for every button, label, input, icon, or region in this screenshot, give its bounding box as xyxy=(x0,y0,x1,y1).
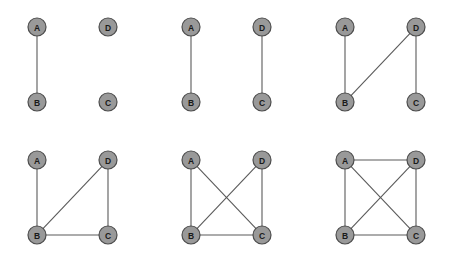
graph-node-label-B: B xyxy=(188,231,194,241)
graph-node-C[interactable]: C xyxy=(407,93,425,111)
graph-node-B[interactable]: B xyxy=(28,226,46,244)
graph-node-label-A: A xyxy=(188,156,194,166)
graph-node-B[interactable]: B xyxy=(28,93,46,111)
graph-node-C[interactable]: C xyxy=(99,93,117,111)
graph-node-D[interactable]: D xyxy=(99,18,117,36)
graph-node-label-D: D xyxy=(259,23,265,33)
graph-node-A[interactable]: A xyxy=(182,151,200,169)
graph-edge-BD xyxy=(43,166,103,229)
graph-node-label-A: A xyxy=(188,23,194,33)
graph-node-A[interactable]: A xyxy=(336,18,354,36)
graph-node-D[interactable]: D xyxy=(407,151,425,169)
graph-node-label-A: A xyxy=(342,23,348,33)
graph-panel-1: ABCD xyxy=(0,0,154,133)
graph-node-D[interactable]: D xyxy=(253,151,271,169)
graph-node-label-B: B xyxy=(342,231,348,241)
graph-node-B[interactable]: B xyxy=(182,93,200,111)
graph-node-C[interactable]: C xyxy=(407,226,425,244)
graph-node-label-C: C xyxy=(105,231,111,241)
graph-node-A[interactable]: A xyxy=(182,18,200,36)
graph-node-C[interactable]: C xyxy=(253,93,271,111)
graph-panel-3: ABCD xyxy=(308,0,462,133)
graph-node-A[interactable]: A xyxy=(28,18,46,36)
graph-canvas-5: ABCD xyxy=(154,133,308,266)
graph-panel-6: ABCD xyxy=(308,133,462,266)
graph-canvas-3: ABCD xyxy=(308,0,462,133)
graph-node-label-A: A xyxy=(342,156,348,166)
graph-sequence-figure: ABCDABCDABCDABCDABCDABCD xyxy=(0,0,462,266)
graph-node-A[interactable]: A xyxy=(336,151,354,169)
graph-node-label-C: C xyxy=(259,98,265,108)
graph-node-label-D: D xyxy=(105,23,111,33)
graph-node-C[interactable]: C xyxy=(253,226,271,244)
graph-canvas-4: ABCD xyxy=(0,133,154,266)
graph-node-A[interactable]: A xyxy=(28,151,46,169)
graph-node-label-B: B xyxy=(34,231,40,241)
graph-node-label-B: B xyxy=(34,98,40,108)
graph-node-label-A: A xyxy=(34,156,40,166)
graph-edge-BD xyxy=(351,33,411,96)
graph-node-B[interactable]: B xyxy=(336,226,354,244)
graph-panel-5: ABCD xyxy=(154,133,308,266)
graph-node-label-B: B xyxy=(188,98,194,108)
graph-node-D[interactable]: D xyxy=(253,18,271,36)
graph-node-label-C: C xyxy=(259,231,265,241)
graph-canvas-6: ABCD xyxy=(308,133,462,266)
graph-node-label-D: D xyxy=(413,23,419,33)
graph-canvas-2: ABCD xyxy=(154,0,308,133)
graph-node-D[interactable]: D xyxy=(99,151,117,169)
graph-node-label-D: D xyxy=(413,156,419,166)
graph-node-label-B: B xyxy=(342,98,348,108)
graph-panel-4: ABCD xyxy=(0,133,154,266)
graph-node-label-C: C xyxy=(413,98,419,108)
graph-node-C[interactable]: C xyxy=(99,226,117,244)
graph-node-label-C: C xyxy=(105,98,111,108)
graph-panel-2: ABCD xyxy=(154,0,308,133)
graph-node-label-C: C xyxy=(413,231,419,241)
graph-node-label-D: D xyxy=(105,156,111,166)
graph-node-B[interactable]: B xyxy=(336,93,354,111)
graph-node-label-A: A xyxy=(34,23,40,33)
graph-node-label-D: D xyxy=(259,156,265,166)
graph-node-B[interactable]: B xyxy=(182,226,200,244)
graph-canvas-1: ABCD xyxy=(0,0,154,133)
graph-node-D[interactable]: D xyxy=(407,18,425,36)
